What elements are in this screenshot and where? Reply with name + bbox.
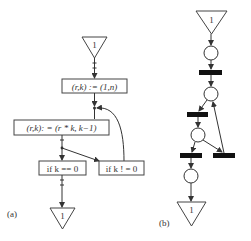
caption-a: (a) [7, 209, 17, 219]
loop-condition-box: if k ! = 0 [99, 161, 144, 175]
place-2 [204, 87, 218, 101]
figure-a-flowchart: 1 (r,k) := (1,n) (r,k): = (r * k, k−1) [7, 37, 144, 229]
svg-text:if k == 0: if k == 0 [47, 164, 79, 174]
transition-3 [180, 153, 202, 158]
figure-b-petri-net: 1 1 (b) [159, 11, 235, 228]
edge-loop-back-b [213, 102, 224, 153]
end-token-triangle-a: 1 [50, 208, 75, 229]
update-assignment-box: (r,k): = (r * k, k−1) [14, 120, 109, 135]
transition-4 [213, 153, 235, 158]
svg-text:if k ! = 0: if k ! = 0 [106, 164, 138, 174]
exit-condition-box: if k == 0 [39, 161, 86, 175]
place-4 [184, 169, 198, 183]
svg-text:1: 1 [209, 15, 214, 25]
svg-text:(r,k): = (r * k, k−1): (r,k): = (r * k, k−1) [27, 123, 97, 133]
end-token-triangle-b: 1 [177, 202, 206, 226]
svg-text:(r,k) := (1,n): (r,k) := (1,n) [72, 82, 118, 92]
transition-1 [199, 70, 222, 75]
transition-2 [187, 112, 208, 117]
init-assignment-box: (r,k) := (1,n) [62, 79, 127, 93]
svg-text:1: 1 [92, 40, 97, 50]
place-3 [191, 128, 205, 142]
edge-split-to-loop [62, 148, 99, 161]
start-token-triangle-a: 1 [82, 37, 107, 58]
svg-text:1: 1 [60, 211, 65, 221]
caption-b: (b) [159, 218, 170, 228]
start-token-triangle-b: 1 [196, 11, 227, 34]
svg-text:1: 1 [189, 205, 194, 215]
place-1 [204, 46, 218, 60]
diagram-canvas: 1 (r,k) := (1,n) (r,k): = (r * k, k−1) [0, 0, 251, 241]
